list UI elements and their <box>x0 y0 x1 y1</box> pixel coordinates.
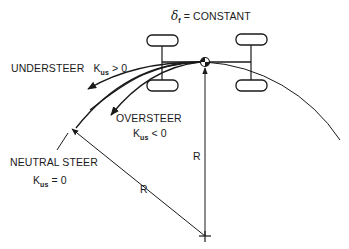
radius-line-diagonal <box>72 129 205 236</box>
neutral-condition: = 0 <box>52 174 67 186</box>
oversteer-condition: < 0 <box>152 127 167 139</box>
understeer-k-sub: us <box>101 69 109 76</box>
neutral-text: NEUTRAL STEER <box>10 156 98 168</box>
rear-right-wheel <box>236 80 267 91</box>
oversteer-label: OVERSTEER <box>116 113 182 124</box>
neutral-steer-leader <box>57 133 68 150</box>
neutral-steer-arc <box>205 62 340 140</box>
steering-diagram: δf = CONSTANT UNDERSTEER Kus > 0 OVERSTE… <box>0 0 349 249</box>
front-right-wheel <box>147 80 178 91</box>
understeer-label: UNDERSTEER Kus > 0 <box>11 63 127 76</box>
neutral-k-sub: us <box>40 181 48 188</box>
oversteer-k-label: Kus < 0 <box>133 128 167 141</box>
rear-left-wheel <box>236 34 267 45</box>
understeer-k: K <box>93 62 100 74</box>
radius-label-diagonal: R <box>140 184 148 195</box>
understeer-condition: > 0 <box>112 62 127 74</box>
neutral-steer-label: NEUTRAL STEER <box>10 157 98 168</box>
steer-condition: = CONSTANT <box>184 10 251 22</box>
center-of-gravity-icon <box>201 58 210 67</box>
steer-angle-label: δf = CONSTANT <box>171 10 251 24</box>
diagram-canvas <box>0 0 349 249</box>
understeer-text: UNDERSTEER <box>11 62 84 74</box>
front-left-wheel <box>147 35 178 46</box>
oversteer-k-sub: us <box>140 134 148 141</box>
steer-subscript: f <box>178 17 180 24</box>
oversteer-text: OVERSTEER <box>116 112 182 124</box>
radius-label-vertical: R <box>193 151 201 162</box>
neutral-k-label: Kus = 0 <box>33 175 67 188</box>
